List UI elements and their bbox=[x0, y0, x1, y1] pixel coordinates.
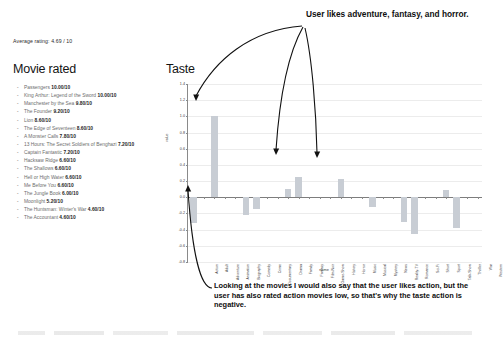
bullet-icon: • bbox=[17, 108, 19, 115]
gridline bbox=[188, 181, 482, 182]
gridline bbox=[188, 213, 482, 214]
bar-thriller bbox=[453, 197, 460, 228]
movie-score-text: 9.20/10 bbox=[53, 109, 69, 114]
y-tick-mark bbox=[186, 165, 188, 166]
taste-bar-chart: value -0.8-0.6-0.4-0.20.00.20.40.60.81.0… bbox=[166, 84, 482, 262]
bullet-icon: • bbox=[17, 174, 19, 181]
bar-sci-fi bbox=[411, 197, 418, 233]
bullet-icon: • bbox=[17, 117, 19, 124]
x-tick-mark bbox=[446, 197, 447, 199]
list-item: •The Shallows 6.60/10 bbox=[13, 165, 161, 172]
list-item: •Lion 8.60/10 bbox=[13, 117, 161, 124]
movie-title-text: Lion bbox=[24, 118, 35, 123]
y-tick-mark bbox=[186, 246, 188, 247]
x-tick-mark bbox=[204, 197, 205, 199]
movie-score-text: 7.20/10 bbox=[63, 150, 79, 155]
movie-title-text: Captain Fantastic bbox=[24, 150, 63, 155]
bullet-icon: • bbox=[17, 133, 19, 140]
y-tick-mark bbox=[186, 149, 188, 150]
bar-family bbox=[285, 189, 292, 197]
bullet-icon: • bbox=[17, 141, 19, 148]
bar-crime bbox=[253, 197, 260, 209]
movie-title-text: Passengers bbox=[24, 85, 51, 90]
movie-title-text: The Accountant bbox=[24, 215, 59, 220]
y-tick-label: 1.2 bbox=[180, 98, 185, 102]
list-item: •Hacksaw Ridge 6.60/10 bbox=[13, 157, 161, 164]
movie-title-text: The Huntsman: Winter's War bbox=[24, 207, 88, 212]
y-tick-label: 0.0 bbox=[180, 195, 185, 199]
movie-title-text: The Edge of Seventeen bbox=[24, 126, 77, 131]
bar-comedy bbox=[243, 197, 250, 215]
list-item: •The Huntsman: Winter's War 4.60/10 bbox=[13, 206, 161, 213]
x-tick-mark bbox=[393, 197, 394, 199]
y-tick-mark bbox=[186, 100, 188, 101]
x-tick-mark bbox=[341, 197, 342, 199]
list-item: •Manchester by the Sea 9.80/10 bbox=[13, 100, 161, 107]
movie-title-text: 13 Hours: The Secret Soldiers of Benghaz… bbox=[24, 142, 118, 147]
movie-title-text: King Arthur: Legend of the Sword bbox=[24, 93, 97, 98]
x-tick-mark bbox=[383, 197, 384, 199]
list-item: •Moonlight 5.20/10 bbox=[13, 198, 161, 205]
bullet-icon: • bbox=[17, 92, 19, 99]
bar-romance bbox=[401, 197, 408, 221]
x-tick-mark bbox=[425, 197, 426, 199]
list-item: •King Arthur: Legend of the Sword 10.00/… bbox=[13, 92, 161, 99]
page-caption-strip bbox=[18, 331, 472, 335]
list-item: •Me Before You 6.60/10 bbox=[13, 182, 161, 189]
annotation-top: User likes adventure, fantasy, and horro… bbox=[306, 9, 486, 20]
x-tick-mark bbox=[478, 197, 479, 199]
movie-rated-list: •Passengers 10.00/10•King Arthur: Legend… bbox=[13, 84, 161, 222]
y-axis-ticks: -0.8-0.6-0.4-0.20.00.20.40.60.81.01.21.4 bbox=[166, 84, 185, 262]
x-tick-mark bbox=[235, 197, 236, 199]
movie-score-text: 5.20/10 bbox=[47, 199, 63, 204]
x-tick-label: Reality-TV bbox=[416, 264, 420, 280]
y-tick-label: 0.8 bbox=[180, 131, 185, 135]
gridline bbox=[188, 116, 482, 117]
bullet-icon: • bbox=[17, 165, 19, 172]
x-tick-mark bbox=[278, 197, 279, 199]
list-item: •The Founder 9.20/10 bbox=[13, 108, 161, 115]
bar-fantasy bbox=[295, 177, 302, 197]
movie-score-text: 8.60/10 bbox=[77, 126, 93, 131]
movie-score-text: 9.80/10 bbox=[76, 101, 92, 106]
movie-rated-panel: Movie rated •Passengers 10.00/10•King Ar… bbox=[13, 62, 161, 222]
y-tick-mark bbox=[186, 262, 188, 263]
list-item: •The Edge of Seventeen 8.60/10 bbox=[13, 125, 161, 132]
taste-heading: Taste bbox=[166, 62, 478, 76]
movie-title-text: The Jungle Book bbox=[24, 191, 62, 196]
bar-action bbox=[190, 197, 197, 223]
x-tick-mark bbox=[267, 197, 268, 199]
bar-horror bbox=[338, 179, 345, 197]
y-tick-mark bbox=[186, 116, 188, 117]
gridline bbox=[188, 262, 482, 263]
movie-score-text: 4.60/10 bbox=[88, 207, 104, 212]
bullet-icon: • bbox=[17, 100, 19, 107]
list-item: •Captain Fantastic 7.20/10 bbox=[13, 149, 161, 156]
bullet-icon: • bbox=[17, 182, 19, 189]
movie-score-text: 4.60/10 bbox=[59, 215, 75, 220]
x-tick-label: War bbox=[490, 264, 494, 270]
y-tick-label: 0.2 bbox=[180, 179, 185, 183]
gridline bbox=[188, 165, 482, 166]
x-tick-mark bbox=[436, 197, 437, 199]
x-tick-mark bbox=[299, 197, 300, 199]
gridline bbox=[188, 100, 482, 101]
average-rating-text: Average rating: 4.69 / 10 bbox=[13, 38, 72, 44]
bullet-icon: • bbox=[17, 214, 19, 221]
y-tick-mark bbox=[186, 230, 188, 231]
bullet-icon: • bbox=[17, 198, 19, 205]
movie-title-text: Hell or High Water bbox=[24, 175, 65, 180]
x-tick-mark bbox=[214, 197, 215, 199]
movie-score-text: 6.60/10 bbox=[55, 166, 71, 171]
y-tick-label: -0.6 bbox=[179, 244, 185, 248]
movie-score-text: 6.60/10 bbox=[57, 183, 73, 188]
y-tick-mark bbox=[186, 133, 188, 134]
plot-area: ActionAdultAdventureAnimationBiographyCo… bbox=[187, 84, 482, 262]
x-tick-mark bbox=[225, 197, 226, 199]
y-tick-label: -0.8 bbox=[179, 260, 185, 264]
movie-score-text: 7.80/10 bbox=[60, 134, 76, 139]
gridline bbox=[188, 149, 482, 150]
movie-title-text: The Founder bbox=[24, 109, 53, 114]
movie-title-text: A Monster Calls bbox=[24, 134, 60, 139]
